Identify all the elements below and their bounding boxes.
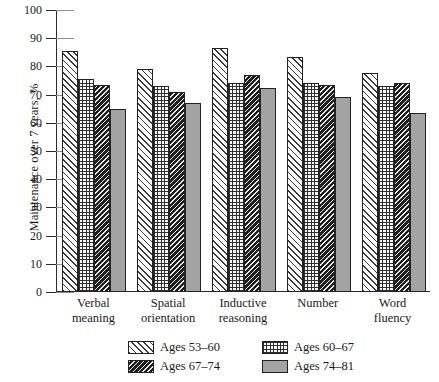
y-tick: 40 (46, 179, 56, 180)
x-axis-label: Wordfluency (355, 296, 430, 326)
bar-group (287, 10, 351, 292)
bar (303, 83, 319, 292)
legend-swatch (262, 341, 288, 354)
bar (335, 97, 351, 292)
y-tick-label: 20 (8, 228, 42, 244)
bar-group (137, 10, 201, 292)
y-tick-label: 10 (8, 256, 42, 272)
legend-item: Ages 67–74 (128, 359, 220, 373)
y-tick-label: 40 (8, 171, 42, 187)
bar (260, 88, 276, 292)
bar (228, 83, 244, 292)
x-axis-label: Verbalmeaning (56, 296, 131, 326)
x-axis-label-line: orientation (131, 311, 206, 326)
chart-legend: Ages 53–60Ages 60–67Ages 67–74Ages 74–81 (128, 340, 388, 378)
x-axis-label-line: meaning (56, 311, 131, 326)
bar (110, 109, 126, 292)
y-tick-label: 60 (8, 115, 42, 131)
x-axis-labels: VerbalmeaningSpatialorientationInductive… (56, 296, 430, 334)
x-axis-label-line: Word (355, 296, 430, 311)
x-axis-label-line: Spatial (131, 296, 206, 311)
bar (137, 69, 153, 292)
x-axis-label-line: Verbal (56, 296, 131, 311)
x-axis-label: Spatialorientation (131, 296, 206, 326)
bar (153, 86, 169, 292)
legend-item: Ages 74–81 (262, 359, 354, 373)
legend-item: Ages 53–60 (128, 340, 220, 354)
y-tick: 30 (46, 207, 56, 208)
y-tick-label: 50 (8, 143, 42, 159)
bar (287, 57, 303, 292)
bar (378, 86, 394, 292)
x-axis-label-line: Number (280, 296, 355, 311)
y-tick-label: 70 (8, 87, 42, 103)
y-tick: 100 (46, 10, 56, 11)
bar-group (62, 10, 126, 292)
y-tick: 10 (46, 264, 56, 265)
bars-layer (57, 10, 430, 292)
y-tick-label: 90 (8, 30, 42, 46)
y-tick-label: 0 (8, 284, 42, 300)
bar (319, 85, 335, 292)
bar (212, 48, 228, 292)
y-tick-label: 80 (8, 58, 42, 74)
bar (78, 79, 94, 292)
legend-label: Ages 53–60 (160, 340, 220, 354)
bar-group (362, 10, 426, 292)
bar (362, 73, 378, 292)
bar (169, 92, 185, 292)
bar (185, 103, 201, 292)
x-axis-label: Number (280, 296, 355, 311)
y-tick: 80 (46, 66, 56, 67)
legend-label: Ages 67–74 (160, 359, 220, 373)
legend-swatch (128, 341, 154, 354)
bar (410, 113, 426, 292)
legend-swatch (262, 360, 288, 373)
bar (394, 83, 410, 292)
bar (94, 85, 110, 292)
plot-area: 0102030405060708090100 (56, 10, 430, 292)
bar (62, 51, 78, 292)
y-tick: 50 (46, 151, 56, 152)
bar-group (212, 10, 276, 292)
y-tick: 90 (46, 38, 56, 39)
legend-item: Ages 60–67 (262, 340, 354, 354)
legend-swatch (128, 360, 154, 373)
x-axis-label-line: fluency (355, 311, 430, 326)
y-tick: 20 (46, 236, 56, 237)
y-tick-inner-mark (56, 292, 74, 293)
x-axis-label-line: reasoning (206, 311, 281, 326)
y-tick-label: 30 (8, 199, 42, 215)
bar (244, 75, 260, 292)
y-tick: 0 (46, 292, 56, 293)
x-axis-label-line: Inductive (206, 296, 281, 311)
x-axis-label: Inductivereasoning (206, 296, 281, 326)
y-tick-label: 100 (8, 2, 42, 18)
legend-label: Ages 60–67 (294, 340, 354, 354)
y-tick: 70 (46, 95, 56, 96)
y-tick: 60 (46, 123, 56, 124)
bar-chart: Maintenance over 7 years, % 010203040506… (0, 0, 439, 382)
legend-label: Ages 74–81 (294, 359, 354, 373)
